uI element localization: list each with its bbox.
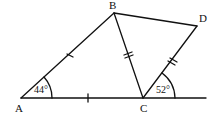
point-label-d: D (199, 12, 207, 24)
angle-label-a: 44° (34, 84, 48, 95)
geometry-diagram: A B C D 44° 52° (0, 0, 213, 115)
point-label-c: C (140, 102, 147, 114)
segment-bd (114, 13, 197, 26)
point-label-b: B (109, 0, 116, 11)
point-label-a: A (15, 102, 23, 114)
angle-label-c: 52° (156, 84, 170, 95)
segment-bc (114, 13, 143, 98)
